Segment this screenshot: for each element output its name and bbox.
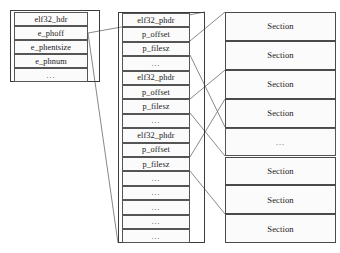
phdr-row-ellipsis-7: ... (122, 114, 190, 128)
section-row-ellipsis-4: ... (225, 128, 336, 157)
phdr-row-p-filesz-6: p_filesz (122, 99, 190, 113)
section-row-section-7: Section (225, 214, 336, 243)
elf-header-row-elf32-hdr-0: elf32_hdr (14, 12, 88, 26)
phdr-row-ellipsis-12: ... (122, 186, 190, 200)
phdr-row-p-offset-9: p_offset (122, 143, 190, 157)
phdr-row-p-offset-5: p_offset (122, 85, 190, 99)
phdr-row-ellipsis-15: ... (122, 229, 190, 243)
elf-header-row-e-phoff-1: e_phoff (14, 26, 88, 40)
elf-layout-diagram: elf32_hdre_phoffe_phentsizee_phnum... el… (0, 0, 340, 253)
phdr-row-p-filesz-10: p_filesz (122, 157, 190, 171)
section-row-section-6: Section (225, 185, 336, 214)
section-row-section-3: Section (225, 99, 336, 128)
phdr-row-ellipsis-3: ... (122, 56, 190, 70)
phdr-row-ellipsis-14: ... (122, 215, 190, 229)
section-row-section-2: Section (225, 70, 336, 99)
phdr-row-p-offset-1: p_offset (122, 27, 190, 41)
phdr-row-ellipsis-13: ... (122, 200, 190, 214)
phdr-row-elf32-phdr-8: elf32_phdr (122, 128, 190, 142)
elf-header-row-ellipsis-4: ... (14, 68, 88, 82)
phdr-row-elf32-phdr-0: elf32_phdr (122, 13, 190, 27)
section-row-section-1: Section (225, 41, 336, 70)
phdr-row-elf32-phdr-4: elf32_phdr (122, 71, 190, 85)
section-row-section-0: Section (225, 12, 336, 41)
section-row-section-5: Section (225, 157, 336, 186)
elf-header-row-e-phentsize-2: e_phentsize (14, 40, 88, 54)
elf-header-row-e-phnum-3: e_phnum (14, 54, 88, 68)
phdr-row-p-filesz-2: p_filesz (122, 42, 190, 56)
phdr-row-ellipsis-11: ... (122, 171, 190, 185)
